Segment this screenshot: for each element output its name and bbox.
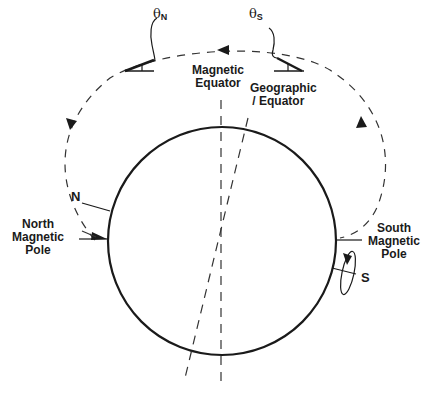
magnetic-equator-label: Magnetic Equator — [192, 64, 244, 90]
north-marker-line — [82, 203, 110, 211]
south-marker-label: S — [361, 271, 370, 284]
south-magnetic-pole-label: South Magnetic Pole — [368, 222, 420, 261]
geographic-equator-line — [184, 118, 248, 382]
north-magnetic-pole-label: North Magnetic Pole — [12, 218, 64, 257]
earth-circle — [108, 127, 336, 355]
geographic-equator-label: Geographic / Equator — [250, 82, 317, 108]
south-marker-line — [332, 268, 356, 274]
orbit-arrow-top-icon — [217, 45, 229, 55]
north-marker-label: N — [71, 190, 80, 203]
antenna-south-icon — [269, 28, 304, 71]
diagram-canvas — [0, 0, 439, 398]
orbit-arrow-left-icon — [66, 118, 77, 130]
antenna-north-icon — [125, 18, 157, 71]
theta-north-label: θN — [153, 6, 167, 22]
theta-south-label: θS — [249, 6, 263, 22]
orbit-arrow-right-icon — [356, 116, 367, 128]
